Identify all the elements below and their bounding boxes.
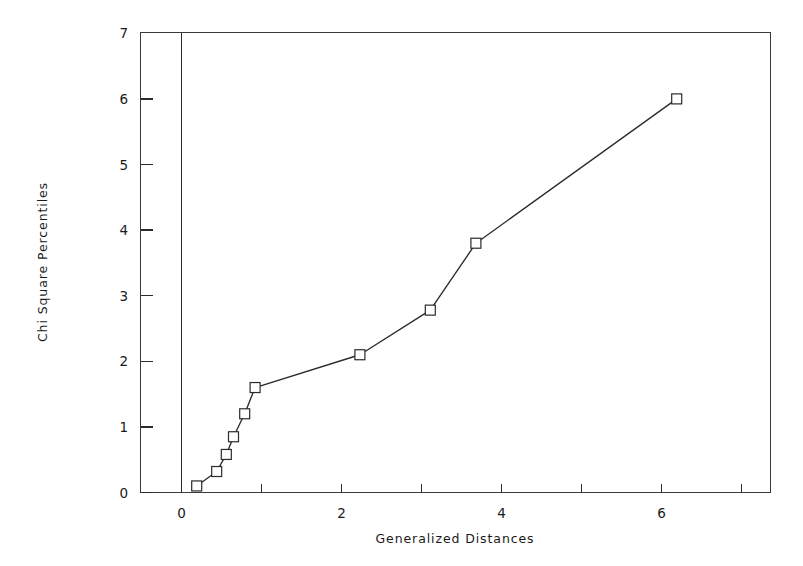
data-series: [192, 94, 682, 491]
data-point-marker[interactable]: [355, 350, 365, 360]
chart-container: 0 1 2 3 4 5 6 7 0 2 4 6 Generalized Dist…: [0, 0, 803, 566]
y-axis-title: Chi Square Percentiles: [35, 182, 50, 342]
x-axis-ticks: [182, 484, 742, 493]
data-point-marker[interactable]: [672, 94, 682, 104]
y-tick-label: 0: [119, 485, 128, 501]
data-point-marker[interactable]: [425, 305, 435, 315]
y-tick-label: 7: [119, 25, 128, 41]
y-tick-label: 5: [119, 157, 128, 173]
x-tick-label: 0: [177, 505, 186, 521]
series-line: [197, 99, 677, 486]
data-point-marker[interactable]: [212, 467, 222, 477]
data-point-marker[interactable]: [471, 238, 481, 248]
data-point-marker[interactable]: [221, 449, 231, 459]
data-point-marker[interactable]: [229, 432, 239, 442]
x-tick-label: 2: [337, 505, 346, 521]
y-tick-label: 1: [119, 419, 128, 435]
x-axis-title: Generalized Distances: [376, 531, 535, 546]
y-tick-labels: 0 1 2 3 4 5 6 7: [119, 25, 128, 500]
y-tick-label: 2: [119, 353, 128, 369]
data-point-marker[interactable]: [240, 409, 250, 419]
x-tick-label: 4: [497, 505, 506, 521]
y-tick-label: 3: [119, 288, 128, 304]
chi-square-qq-plot: 0 1 2 3 4 5 6 7 0 2 4 6 Generalized Dist…: [0, 0, 803, 566]
y-tick-label: 6: [119, 91, 128, 107]
y-tick-label: 4: [119, 222, 128, 238]
x-tick-labels: 0 2 4 6: [177, 505, 666, 521]
x-tick-label: 6: [657, 505, 666, 521]
data-point-marker[interactable]: [192, 481, 202, 491]
data-point-marker[interactable]: [250, 383, 260, 393]
y-axis-ticks: [141, 99, 153, 493]
